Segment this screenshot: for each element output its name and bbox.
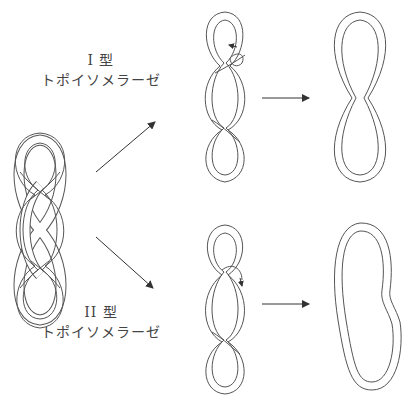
type1-intermediate — [205, 12, 245, 182]
arrow-type2 — [96, 237, 153, 288]
type1-figure-eight — [334, 12, 385, 182]
arrow-type1 — [96, 122, 155, 172]
topoisomerase-diagram: I 型 トポイソメラーゼ II 型 トポイソメラーゼ — [0, 0, 415, 404]
type2-relaxed-loop — [334, 223, 401, 390]
diagram-graphics — [0, 0, 415, 404]
type2-intermediate — [206, 225, 245, 394]
